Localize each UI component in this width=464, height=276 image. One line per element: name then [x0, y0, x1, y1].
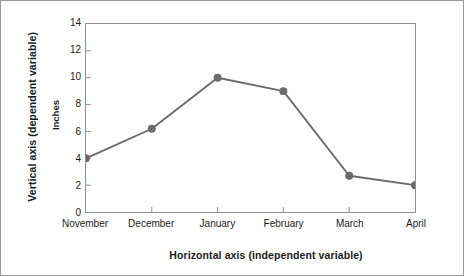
data-point-marker — [214, 74, 222, 82]
y-tick-label: 0 — [59, 208, 81, 218]
chart-figure: Vertical axis (dependent variable) Inche… — [0, 0, 464, 276]
y-tick-label: 2 — [59, 181, 81, 191]
y-tick-label: 6 — [59, 127, 81, 137]
y-axis-title-text: Vertical axis (dependent variable) — [26, 32, 38, 202]
x-tick-label: November — [62, 219, 108, 229]
data-point-marker — [148, 125, 156, 133]
x-tick-label: April — [406, 219, 426, 229]
plot-area — [85, 23, 416, 213]
x-tick-label: January — [200, 219, 236, 229]
y-tick-label: 12 — [59, 45, 81, 55]
x-axis-title: Horizontal axis (independent variable) — [85, 249, 447, 261]
data-point-marker — [345, 172, 353, 180]
x-tick-label: March — [336, 219, 364, 229]
data-point-marker — [411, 181, 415, 189]
y-tick-label: 10 — [59, 72, 81, 82]
line-chart-svg — [86, 24, 415, 212]
data-line — [86, 78, 415, 185]
y-tick-labels: 02468101214 — [55, 23, 81, 213]
x-tick-label: December — [128, 219, 174, 229]
x-tick-labels: NovemberDecemberJanuaryFebruaryMarchApri… — [85, 219, 416, 235]
y-tick-label: 4 — [59, 154, 81, 164]
data-point-marker — [279, 87, 287, 95]
y-tick-label: 8 — [59, 99, 81, 109]
y-axis-title: Vertical axis (dependent variable) — [23, 1, 41, 233]
data-point-marker — [86, 154, 90, 162]
y-tick-label: 14 — [59, 18, 81, 28]
x-tick-label: February — [264, 219, 304, 229]
